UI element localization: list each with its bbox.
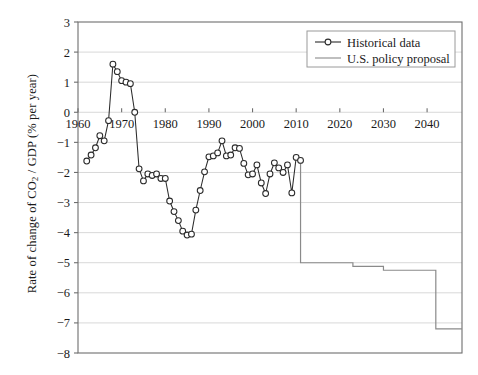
legend-label-1: U.S. policy proposal	[347, 52, 450, 66]
x-tick-label-1990: 1990	[196, 117, 221, 131]
series-us-policy-proposal	[301, 160, 462, 329]
historical-data-marker	[215, 150, 221, 156]
historical-data-marker	[280, 170, 286, 176]
x-tick-label-1980: 1980	[153, 117, 178, 131]
historical-data-marker	[237, 145, 243, 151]
historical-data-marker	[101, 138, 107, 144]
x-tick-label-1960: 1960	[66, 117, 91, 131]
policy-proposal-line	[301, 160, 462, 329]
x-tick-labels-group: 196019701980199020002010202020302040	[66, 117, 440, 131]
historical-data-marker	[202, 169, 208, 175]
historical-data-marker	[132, 109, 138, 115]
chart-legend: Historical dataU.S. policy proposal	[307, 31, 455, 67]
historical-data-marker	[114, 69, 120, 75]
historical-data-marker	[136, 166, 142, 172]
historical-data-marker	[175, 218, 181, 224]
y-axis-label-post: / GDP (% per year)	[25, 74, 39, 177]
y-tick-label--1: −1	[57, 136, 70, 150]
y-tick-label--2: −2	[57, 166, 70, 180]
chart-plot-svg: 3210−1−2−3−4−5−6−7−8 1960197019801990200…	[0, 0, 478, 375]
historical-data-marker	[93, 145, 99, 151]
historical-data-marker	[171, 209, 177, 215]
historical-data-marker	[258, 180, 264, 186]
historical-data-marker	[127, 81, 133, 87]
y-tick-label-3: 3	[64, 16, 70, 30]
historical-data-marker	[162, 176, 168, 182]
y-tick-label--7: −7	[57, 316, 70, 330]
series-historical-data	[84, 61, 304, 238]
historical-data-marker	[197, 188, 203, 194]
x-tick-label-2040: 2040	[415, 117, 440, 131]
historical-data-marker	[271, 160, 277, 166]
historical-data-marker	[263, 191, 269, 197]
historical-data-marker	[88, 152, 94, 158]
historical-data-marker	[84, 158, 90, 164]
historical-data-marker	[254, 162, 260, 168]
historical-data-marker	[193, 207, 199, 213]
y-tick-label--6: −6	[57, 286, 70, 300]
legend-marker-0	[325, 39, 331, 45]
historical-data-marker	[167, 198, 173, 204]
legend-label-0: Historical data	[347, 36, 421, 50]
historical-data-marker	[298, 158, 304, 164]
y-tick-marks-group	[74, 22, 78, 353]
historical-data-marker	[267, 171, 273, 177]
historical-data-marker	[219, 138, 225, 144]
historical-data-marker	[141, 178, 147, 184]
y-tick-label--8: −8	[57, 347, 70, 361]
historical-data-marker	[285, 162, 291, 168]
y-tick-label-2: 2	[64, 46, 70, 60]
x-tick-label-2030: 2030	[371, 117, 396, 131]
x-tick-label-1970: 1970	[109, 117, 134, 131]
x-tick-label-2000: 2000	[240, 117, 265, 131]
historical-data-marker	[228, 152, 234, 158]
y-tick-label--3: −3	[57, 196, 70, 210]
historical-data-marker	[106, 118, 112, 124]
gridlines-group	[78, 52, 462, 323]
chart-figure: Rate of change of CO2 / GDP (% per year)…	[0, 0, 478, 375]
y-tick-label--5: −5	[57, 256, 70, 270]
x-tick-marks-group	[78, 108, 427, 112]
historical-data-marker	[241, 161, 247, 167]
historical-data-marker	[289, 190, 295, 196]
historical-data-marker	[250, 171, 256, 177]
y-tick-labels-group: 3210−1−2−3−4−5−6−7−8	[57, 16, 71, 361]
x-tick-label-2010: 2010	[284, 117, 309, 131]
plot-frame	[78, 22, 462, 353]
y-tick-label--4: −4	[57, 226, 71, 240]
x-tick-label-2020: 2020	[327, 117, 352, 131]
historical-data-marker	[110, 61, 116, 67]
y-axis-label: Rate of change of CO2 / GDP (% per year)	[25, 44, 40, 324]
y-tick-label-1: 1	[64, 76, 70, 90]
y-axis-label-subscript: 2	[30, 177, 40, 182]
y-axis-label-pre: Rate of change of CO	[25, 181, 39, 293]
historical-data-marker	[97, 133, 103, 139]
historical-data-marker	[189, 231, 195, 237]
